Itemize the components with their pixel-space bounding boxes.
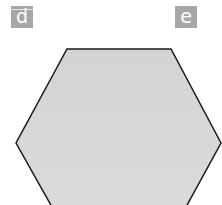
- hexagon-figure: [0, 0, 222, 205]
- hexagon-shape: [16, 49, 221, 205]
